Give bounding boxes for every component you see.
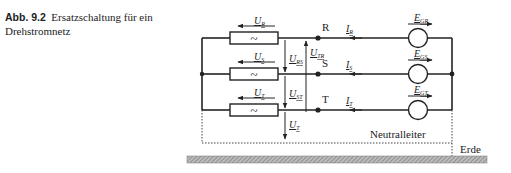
circuit-diagram: ~ R UR IR EGR ~ S US IS: [0, 0, 511, 173]
svg-text:~: ~: [250, 31, 257, 46]
node-t: [315, 107, 320, 112]
source-t: [409, 101, 428, 120]
label-u-r: UR: [254, 15, 265, 27]
label-u-tr: UTR: [310, 47, 325, 59]
label-i-r: IR: [345, 23, 353, 35]
label-u-t: UT: [289, 119, 300, 131]
right-bus: [450, 38, 455, 163]
earth: Erde: [187, 143, 487, 163]
label-i-t: IT: [345, 95, 353, 107]
label-u-s: US: [254, 51, 264, 63]
phase-s: ~ S US IS EGS: [202, 48, 452, 84]
label-i-s: IS: [345, 59, 352, 71]
label-u-st: UST: [289, 88, 303, 100]
neutral-label: Neutralleiter: [370, 128, 426, 140]
earth-label: Erde: [460, 143, 481, 155]
label-e-gt: EGT: [413, 84, 428, 96]
svg-text:~: ~: [250, 103, 257, 118]
svg-text:R: R: [322, 21, 330, 33]
node-r: [315, 35, 320, 40]
node-s: [315, 71, 320, 76]
left-bus: [200, 38, 204, 143]
label-e-gr: EGR: [413, 12, 428, 24]
phase-r: ~ R UR IR EGR: [202, 12, 452, 48]
svg-text:T: T: [322, 93, 329, 105]
phase-t: ~ T UT IT EGT: [202, 84, 452, 120]
neutral-conductor: Neutralleiter: [202, 128, 452, 143]
label-u-rs: URS: [289, 53, 303, 65]
source-r: [409, 29, 428, 48]
label-e-gs: EGS: [413, 48, 427, 60]
svg-text:~: ~: [250, 67, 257, 82]
source-s: [409, 65, 428, 84]
line-voltages: URS UST UTR UT: [285, 40, 325, 139]
label-u-t-phase: UT: [254, 87, 265, 99]
